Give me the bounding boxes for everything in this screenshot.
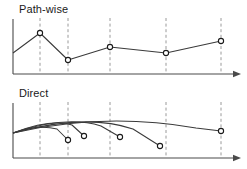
data-point-marker: [65, 137, 70, 142]
data-point-marker: [81, 133, 86, 138]
data-point-marker: [218, 128, 223, 133]
data-point-marker: [37, 30, 42, 35]
plot-direct: [0, 84, 247, 169]
data-point-marker: [163, 50, 168, 55]
data-point-marker: [117, 134, 122, 139]
panel-pathwise: Path-wise: [0, 0, 247, 84]
data-point-marker: [157, 143, 162, 148]
figure-container: Path-wise Direct: [0, 0, 247, 169]
plot-pathwise: [0, 0, 247, 84]
direct-curve-arc-5: [13, 121, 221, 133]
data-point-marker: [65, 57, 70, 62]
x-axis-arrow-icon: [233, 71, 241, 77]
panel-direct: Direct: [0, 84, 247, 168]
data-point-marker: [107, 44, 112, 49]
data-point-marker: [218, 38, 223, 43]
x-axis-arrow-icon: [233, 155, 241, 161]
pathwise-polyline: [13, 33, 221, 60]
